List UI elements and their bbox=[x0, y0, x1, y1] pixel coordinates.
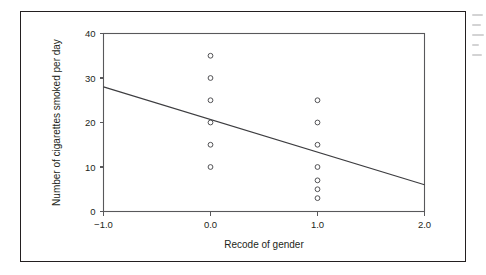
data-point bbox=[208, 120, 213, 125]
data-point bbox=[208, 76, 213, 81]
data-point bbox=[315, 98, 320, 103]
data-point bbox=[315, 120, 320, 125]
scatter-chart: −1.00.01.02.0010203040Recode of genderNu… bbox=[0, 0, 486, 275]
y-axis-tick-label: 30 bbox=[85, 73, 96, 84]
data-point bbox=[208, 53, 213, 58]
data-point bbox=[208, 142, 213, 147]
y-axis-tick-label: 10 bbox=[85, 162, 96, 173]
data-point bbox=[208, 165, 213, 170]
data-point bbox=[315, 187, 320, 192]
y-axis-tick-label: 0 bbox=[90, 206, 95, 217]
y-axis-tick-label: 20 bbox=[85, 117, 96, 128]
data-point bbox=[315, 142, 320, 147]
y-axis-title: Number of cigarettes smoked per day bbox=[51, 39, 62, 206]
data-point bbox=[315, 196, 320, 201]
plot-frame bbox=[104, 34, 425, 212]
x-axis-tick-label: −1.0 bbox=[94, 219, 113, 230]
data-point bbox=[315, 165, 320, 170]
regression-line bbox=[104, 87, 425, 185]
data-point bbox=[208, 98, 213, 103]
x-axis-title: Recode of gender bbox=[224, 239, 304, 250]
x-axis-tick-label: 1.0 bbox=[311, 219, 324, 230]
x-axis-tick-label: 2.0 bbox=[418, 219, 431, 230]
data-point bbox=[315, 178, 320, 183]
x-axis-tick-label: 0.0 bbox=[204, 219, 217, 230]
y-axis-tick-label: 40 bbox=[85, 28, 96, 39]
